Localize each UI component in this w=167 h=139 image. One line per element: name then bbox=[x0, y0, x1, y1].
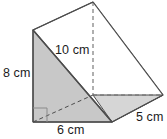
dimension-label-height: 8 cm bbox=[3, 67, 31, 80]
geometry-figure-canvas: 8 cm 10 cm 6 cm 5 cm bbox=[0, 0, 167, 139]
dimension-label-depth: 5 cm bbox=[136, 111, 164, 124]
dimension-label-base: 6 cm bbox=[57, 124, 85, 137]
dimension-label-slant: 10 cm bbox=[55, 44, 90, 57]
